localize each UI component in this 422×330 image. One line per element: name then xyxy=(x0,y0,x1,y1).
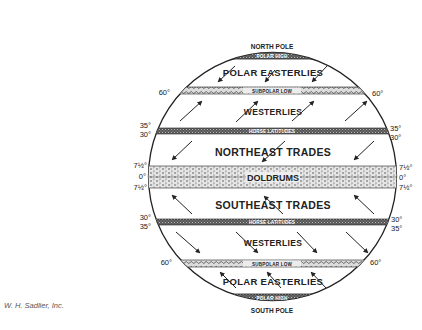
global-wind-belts-diagram: POLAR HIGH SUBPOLAR LOW HORSE LATITUDES … xyxy=(0,0,422,330)
north-pole-label: NORTH POLE xyxy=(251,43,294,50)
publisher-credit: W. H. Sadlier, Inc. xyxy=(4,301,64,310)
lat-left-7s: 7½° xyxy=(134,183,147,192)
horse-latitudes-south-label: HORSE LATITUDES xyxy=(249,220,295,225)
polar-high-south-label: POLAR HIGH xyxy=(257,296,288,301)
lat-left-30s: 30° xyxy=(140,213,151,222)
subpolar-low-south-label: SUBPOLAR LOW xyxy=(252,262,293,267)
horse-latitudes-north-label: HORSE LATITUDES xyxy=(249,129,295,134)
lat-left-60s: 60° xyxy=(161,258,172,267)
lat-right-30s: 30° xyxy=(391,215,402,224)
lat-right-7s: 7½° xyxy=(399,183,412,192)
lat-right-eq: 0° xyxy=(399,173,406,182)
subpolar-low-north-label: SUBPOLAR LOW xyxy=(252,89,293,94)
lat-left-35s: 35° xyxy=(140,222,151,231)
lat-right-35n: 35° xyxy=(390,124,401,133)
westerlies-south-label: WESTERLIES xyxy=(244,238,302,248)
lat-left-60n: 60° xyxy=(159,88,170,97)
westerlies-north-label: WESTERLIES xyxy=(244,107,302,117)
south-pole-label: SOUTH POLE xyxy=(251,307,294,314)
lat-right-7n: 7½° xyxy=(399,163,412,172)
lat-left-30n: 30° xyxy=(140,130,151,139)
lat-right-60n: 60° xyxy=(372,89,383,98)
lat-left-35n: 35° xyxy=(140,121,151,130)
lat-left-eq: 0° xyxy=(139,172,146,181)
lat-right-35s: 35° xyxy=(391,224,402,233)
doldrums-label: DOLDRUMS xyxy=(247,173,299,183)
lat-left-7n: 7½° xyxy=(134,161,147,170)
lat-right-30n: 30° xyxy=(390,133,401,142)
lat-right-60s: 60° xyxy=(370,258,381,267)
polar-high-north-label: POLAR HIGH xyxy=(257,54,288,59)
polar-easterlies-south-label: POLAR EASTERLIES xyxy=(223,276,323,287)
